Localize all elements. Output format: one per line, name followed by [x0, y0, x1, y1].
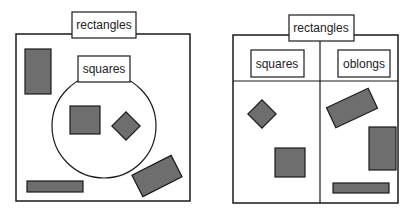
diamond-square-shape	[248, 100, 276, 128]
tilted-oblong-shape	[132, 155, 182, 196]
rectangles-label: rectangles	[76, 18, 131, 32]
square-shape	[70, 106, 100, 134]
squares-partition-label: squares	[256, 57, 299, 71]
squares-label: squares	[83, 62, 126, 76]
square-shape	[275, 148, 305, 177]
oblongs-partition-label: oblongs	[343, 57, 385, 71]
left-venn-panel: rectangles squares	[16, 12, 190, 201]
diamond-square-shape	[112, 112, 140, 140]
tilted-oblong-shape	[327, 88, 378, 127]
rectangles-label: rectangles	[293, 21, 348, 35]
rectangles-classification-diagram: rectangles squares rectangles squares ob…	[0, 0, 420, 213]
flat-oblong-shape	[333, 183, 389, 193]
flat-oblong-shape	[27, 181, 83, 192]
tall-rectangle-shape	[25, 49, 51, 94]
tall-oblong-shape	[369, 127, 396, 170]
right-partition-panel: rectangles squares oblongs	[233, 15, 398, 203]
